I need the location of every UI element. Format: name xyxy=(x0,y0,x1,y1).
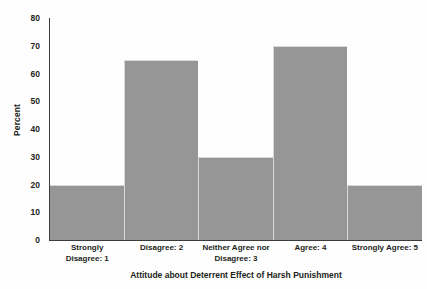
bar xyxy=(273,46,348,240)
y-axis-tick-label: 0 xyxy=(35,235,40,245)
bar xyxy=(124,60,199,240)
bar xyxy=(347,185,422,241)
x-axis-tick-label: Neither Agree nor Disagree: 3 xyxy=(199,242,273,268)
x-axis-tick-label: Disagree: 2 xyxy=(124,242,198,268)
x-axis-tick-label: Agree: 4 xyxy=(273,242,347,268)
bar xyxy=(50,185,124,241)
y-axis-tick-label: 20 xyxy=(31,180,40,190)
y-axis-tick-labels: 01020304050607080 xyxy=(0,18,46,240)
y-axis-tick-label: 10 xyxy=(31,207,40,217)
bar-series xyxy=(50,18,422,240)
x-axis-tick-label: Strongly Disagree: 1 xyxy=(50,242,124,268)
y-axis-tick-label: 50 xyxy=(31,96,40,106)
y-axis-tick-label: 70 xyxy=(31,41,40,51)
bar xyxy=(198,157,273,240)
y-axis-tick-label: 30 xyxy=(31,152,40,162)
y-axis-tick-label: 60 xyxy=(31,69,40,79)
plot-area xyxy=(50,18,422,240)
x-axis-tick-label: Strongly Agree: 5 xyxy=(348,242,422,268)
x-axis-title: Attitude about Deterrent Effect of Harsh… xyxy=(50,270,422,280)
y-axis-tick-label: 40 xyxy=(31,124,40,134)
y-axis-tick-label: 80 xyxy=(31,13,40,23)
x-axis-tick-labels: Strongly Disagree: 1Disagree: 2Neither A… xyxy=(50,242,422,268)
histogram-figure: Percent 01020304050607080 Strongly Disag… xyxy=(0,0,427,289)
